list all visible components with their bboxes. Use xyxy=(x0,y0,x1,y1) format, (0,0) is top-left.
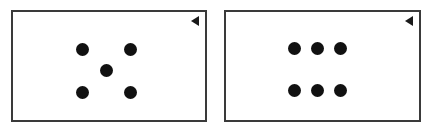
dot-field-left xyxy=(13,12,205,120)
panel-right[interactable] xyxy=(224,10,421,122)
dot xyxy=(311,84,324,97)
left-pointing-triangle-icon xyxy=(191,16,199,26)
left-pointing-triangle-icon xyxy=(405,16,413,26)
diagram-canvas xyxy=(0,0,434,132)
panel-left[interactable] xyxy=(11,10,207,122)
dot xyxy=(124,43,137,56)
dot xyxy=(334,84,347,97)
dot xyxy=(288,42,301,55)
dot xyxy=(76,86,89,99)
dot xyxy=(76,43,89,56)
dot xyxy=(311,42,324,55)
dot xyxy=(100,64,113,77)
dot-field-right xyxy=(226,12,419,120)
dot xyxy=(124,86,137,99)
dot xyxy=(288,84,301,97)
dot xyxy=(334,42,347,55)
